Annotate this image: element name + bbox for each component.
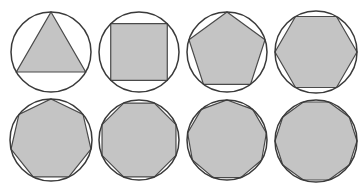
inscribed-polygons-figure [0, 0, 363, 189]
square-in-circle [99, 12, 179, 92]
square-shape [111, 24, 168, 81]
hexagon-in-circle [275, 11, 357, 93]
decagon-in-circle [275, 100, 357, 182]
heptagon-in-circle [10, 99, 92, 181]
triangle-in-circle [11, 12, 91, 92]
pentagon-in-circle [187, 12, 267, 92]
octagon-shape [102, 103, 176, 177]
nonagon-in-circle [187, 100, 267, 180]
decagon-shape [275, 102, 357, 180]
octagon-in-circle [99, 100, 179, 180]
inscribed-polygons-canvas [0, 0, 363, 189]
hexagon-shape [275, 16, 357, 87]
